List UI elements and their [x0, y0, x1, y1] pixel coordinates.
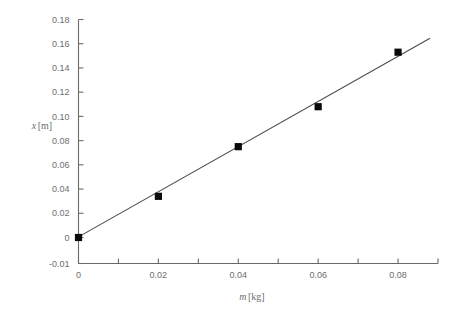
y-axis-title: x[m]: [31, 120, 52, 131]
y-tick-label: 0.02: [52, 208, 70, 218]
data-point-marker: [75, 234, 82, 241]
data-point-markers: [75, 49, 402, 242]
x-tick-label: 0.06: [309, 270, 327, 280]
x-axis-title: m[kg]: [239, 291, 264, 302]
axes: [79, 20, 439, 264]
y-tick-label: 0.12: [52, 87, 70, 97]
y-axis-tick-labels: -0.0100.020.040.060.080.100.120.140.160.…: [49, 15, 70, 269]
chart-figure: -0.0100.020.040.060.080.100.120.140.160.…: [0, 0, 457, 324]
x-axis-tick-labels: 00.020.040.060.08: [76, 270, 407, 280]
y-tick-label: -0.01: [49, 259, 70, 269]
y-tick-label: 0.08: [52, 136, 70, 146]
data-point-marker: [235, 143, 242, 150]
best-fit-line: [79, 38, 431, 237]
y-tick-label: 0.18: [52, 15, 70, 25]
data-point-marker: [315, 103, 322, 110]
y-tick-label: 0.16: [52, 39, 70, 49]
y-tick-label: 0.14: [52, 63, 70, 73]
data-point-marker: [394, 49, 401, 56]
fit-line-segment: [79, 38, 431, 237]
x-tick-label: 0.02: [150, 270, 168, 280]
scatter-plot: -0.0100.020.040.060.080.100.120.140.160.…: [0, 0, 457, 324]
x-tick-label: 0.04: [230, 270, 248, 280]
tick-marks: [79, 20, 439, 264]
y-tick-label: 0.04: [52, 184, 70, 194]
x-tick-label: 0: [76, 270, 81, 280]
y-tick-label: 0.06: [52, 160, 70, 170]
x-tick-label: 0.08: [389, 270, 407, 280]
y-tick-label: 0: [64, 233, 69, 243]
y-tick-label: 0.10: [52, 112, 70, 122]
data-point-marker: [155, 193, 162, 200]
